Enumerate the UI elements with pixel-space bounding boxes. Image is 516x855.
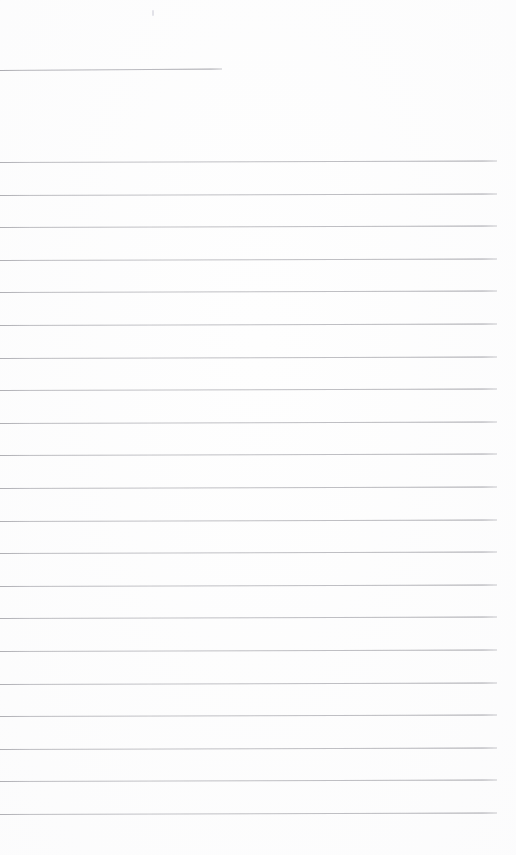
ruled-line <box>0 748 497 751</box>
ruled-line <box>0 161 497 163</box>
ruled-line <box>0 226 497 228</box>
ruled-line <box>0 389 497 392</box>
ruled-line <box>0 585 497 588</box>
ruled-line <box>0 650 497 653</box>
ruled-line <box>0 357 497 360</box>
ruled-line <box>0 487 497 490</box>
ruled-line <box>0 520 497 523</box>
paper-page <box>0 0 516 855</box>
ruled-line <box>0 194 497 196</box>
scan-speck-icon <box>152 10 154 16</box>
ruled-line <box>0 422 497 425</box>
ruled-line <box>0 617 497 620</box>
ruled-line <box>0 291 497 294</box>
header-rule <box>0 69 222 71</box>
paper-texture <box>0 0 516 855</box>
ruled-line <box>0 552 497 555</box>
ruled-line <box>0 715 497 718</box>
ruled-line <box>0 813 497 816</box>
ruled-line <box>0 259 497 262</box>
ruled-line <box>0 324 497 327</box>
ruled-line <box>0 683 497 686</box>
ruled-line <box>0 780 497 783</box>
ruled-line <box>0 454 497 457</box>
